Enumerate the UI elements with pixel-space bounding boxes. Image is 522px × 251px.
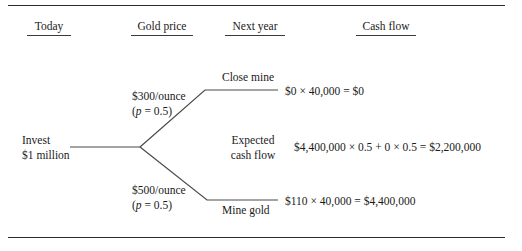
lower-cash-flow-value: $110 × 40,000 = $4,400,000: [285, 194, 415, 208]
lower-branch-price-label: $500/ounce (p = 0.5): [132, 183, 186, 213]
decision-tree-figure: Today Gold price Next year Cash flow Inv…: [0, 0, 522, 251]
expected-label-line-1: Expected: [222, 133, 284, 148]
lower-probability: (p = 0.5): [132, 198, 186, 213]
root-node-label: Invest $1 million: [22, 133, 70, 162]
expected-cash-flow-equation: $4,400,000 × 0.5 + 0 × 0.5 = $2,200,000: [294, 140, 481, 154]
expected-label-line-2: cash flow: [222, 148, 284, 163]
upper-price-value: $300/ounce: [132, 89, 186, 104]
lower-price-value: $500/ounce: [132, 183, 186, 198]
upper-prob-value: = 0.5): [142, 105, 172, 117]
root-label-line-1: Invest: [22, 133, 70, 148]
upper-branch-price-label: $300/ounce (p = 0.5): [132, 89, 186, 119]
lower-decision-label: Mine gold: [222, 203, 270, 218]
lower-prob-value: = 0.5): [142, 199, 172, 211]
upper-decision-label: Close mine: [222, 70, 274, 85]
expected-cash-flow-label: Expected cash flow: [222, 133, 284, 162]
upper-cash-flow-value: $0 × 40,000 = $0: [285, 84, 364, 98]
root-label-line-2: $1 million: [22, 148, 70, 163]
upper-probability: (p = 0.5): [132, 104, 186, 119]
